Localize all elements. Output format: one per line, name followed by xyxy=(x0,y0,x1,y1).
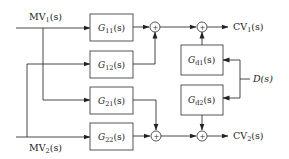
block-g12: G12(s) xyxy=(90,51,133,78)
mv2-label: MV2(s) xyxy=(29,142,62,155)
sum-junction-2: + xyxy=(197,22,207,32)
block-gd1: Gd1(s) xyxy=(181,45,223,75)
cv1-label: CV1(s) xyxy=(233,21,264,34)
block-diagram: G11(s) G12(s) G21(s) G22(s) Gd1(s) Gd2(s… xyxy=(0,0,289,159)
cv2-label: CV2(s) xyxy=(233,130,264,143)
mv2-signal xyxy=(16,64,90,137)
svg-text:+: + xyxy=(200,133,206,141)
disturbance-connections xyxy=(223,60,250,98)
svg-text:+: + xyxy=(153,24,159,32)
svg-text:+: + xyxy=(200,24,206,32)
svg-text:+: + xyxy=(154,133,160,141)
block-g22: G22(s) xyxy=(90,123,133,150)
sum-junction-3: + xyxy=(151,131,161,141)
block-gd2: Gd2(s) xyxy=(181,85,223,115)
sum-junction-4: + xyxy=(197,131,207,141)
disturbance-label: D(s) xyxy=(252,73,273,84)
block-g21: G21(s) xyxy=(90,87,133,114)
block-g11: G11(s) xyxy=(90,14,133,41)
mv1-label: MV1(s) xyxy=(29,11,62,24)
sum-junction-1: + xyxy=(150,22,160,32)
